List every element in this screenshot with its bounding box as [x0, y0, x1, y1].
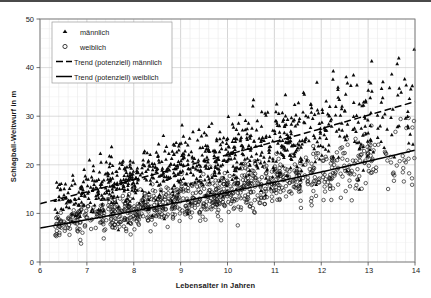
x-tick-label: 10	[218, 266, 238, 275]
y-tick-label: 10	[12, 209, 34, 218]
y-tick-label: 50	[12, 15, 34, 24]
x-axis-title: Lebensalter in Jahren	[0, 281, 431, 290]
x-tick-label: 7	[77, 266, 97, 275]
legend-label-trend-maennlich: Trend (potenziell) männlich	[74, 58, 162, 67]
x-tick-label: 13	[359, 266, 379, 275]
x-tick-label: 8	[124, 266, 144, 275]
x-tick-label: 6	[30, 266, 50, 275]
x-tick-label: 9	[171, 266, 191, 275]
scatter-plot-canvas	[0, 0, 431, 298]
legend-label-maennlich: männlich	[80, 28, 109, 37]
legend-label-trend-weiblich: Trend (potenziell) weiblich	[74, 73, 159, 82]
y-axis-title: Schlagball-Weitwurf in m	[9, 67, 18, 207]
chart-figure: 50 40 30 20 10 0 6 7 8 9 10 11 12 13 14 …	[0, 0, 431, 298]
legend-label-weiblich: weiblich	[80, 43, 106, 52]
x-tick-label: 12	[312, 266, 332, 275]
x-tick-label: 14	[406, 266, 426, 275]
x-tick-label: 11	[265, 266, 285, 275]
